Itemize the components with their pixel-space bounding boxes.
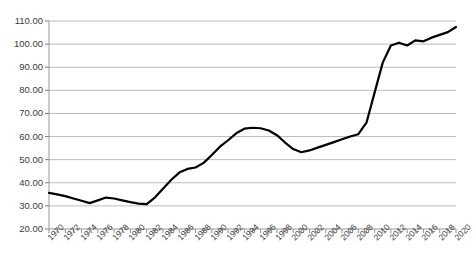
data-series-line	[49, 27, 456, 204]
x-axis-minor-ticks	[49, 229, 456, 233]
chart-container: 110.00100.0090.0080.0070.0060.0050.0040.…	[0, 0, 474, 267]
line-chart-plot	[0, 0, 474, 267]
